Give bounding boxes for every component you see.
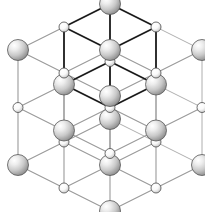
large-sphere [100, 86, 121, 107]
large-sphere [100, 40, 121, 61]
large-sphere [146, 120, 167, 141]
small-sphere [151, 183, 161, 193]
small-sphere [151, 22, 161, 32]
crystal-lattice-figure [0, 0, 205, 212]
small-sphere [13, 103, 23, 113]
figure-background [0, 0, 205, 212]
large-sphere [8, 40, 29, 61]
small-sphere [59, 22, 69, 32]
small-sphere [197, 103, 205, 113]
lattice-diagram [0, 0, 205, 212]
small-sphere [59, 183, 69, 193]
small-sphere [105, 149, 115, 159]
large-sphere [54, 120, 75, 141]
small-sphere [59, 68, 69, 78]
large-sphere [8, 155, 29, 176]
small-sphere [151, 68, 161, 78]
